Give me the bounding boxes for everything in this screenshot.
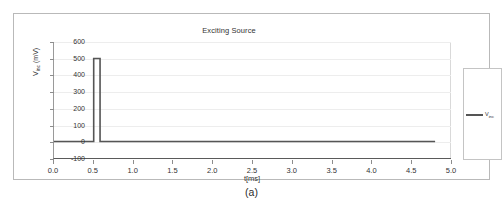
- x-axis-tick-label: 4.0: [356, 166, 386, 175]
- legend: Vinc: [463, 68, 502, 160]
- y-axis-label-unit: (mV): [32, 48, 39, 65]
- plot-area: [53, 42, 451, 159]
- x-axis-tick: [172, 160, 173, 164]
- x-axis-tick-label: 0.0: [38, 166, 68, 175]
- x-axis-tick: [53, 160, 54, 164]
- x-axis-tick-label: 3.5: [317, 166, 347, 175]
- x-axis-tick: [93, 160, 94, 164]
- y-axis-tick-label: 500: [45, 54, 85, 61]
- y-axis-tick-label: 300: [45, 88, 85, 95]
- figure-panel: Exciting Source Vinc (mV) -1000100200300…: [0, 0, 503, 215]
- series-trace-vinc: [54, 42, 451, 158]
- x-axis-tick-label: 5.0: [436, 166, 466, 175]
- legend-item-label: Vinc: [485, 111, 494, 119]
- y-axis-label-main: V: [32, 71, 39, 76]
- x-axis-tick-label: 1.5: [157, 166, 187, 175]
- x-axis-tick: [371, 160, 372, 164]
- y-axis-label-subscript: inc: [35, 65, 41, 71]
- y-axis-tick-label: 0: [45, 138, 85, 145]
- legend-label-subscript: inc: [489, 114, 494, 119]
- x-axis-tick: [292, 160, 293, 164]
- x-axis-tick: [411, 160, 412, 164]
- legend-color-swatch: [466, 114, 483, 116]
- y-axis-tick-label: 400: [45, 71, 85, 78]
- x-axis-tick-label: 4.5: [396, 166, 426, 175]
- chart-title: Exciting Source: [14, 26, 444, 35]
- x-axis-tick: [332, 160, 333, 164]
- x-axis-tick: [133, 160, 134, 164]
- y-axis-tick-label: 100: [45, 121, 85, 128]
- x-axis-tick: [252, 160, 253, 164]
- y-axis-label: Vinc (mV): [32, 48, 41, 76]
- x-axis-tick-label: 0.5: [78, 166, 108, 175]
- x-axis-tick-label: 2.0: [197, 166, 227, 175]
- x-axis-tick: [212, 160, 213, 164]
- x-axis-tick-label: 3.0: [277, 166, 307, 175]
- x-axis-tick: [451, 160, 452, 164]
- x-axis-label: t[ms]: [232, 174, 272, 183]
- y-axis-tick-label: 200: [45, 104, 85, 111]
- figure-caption: (a): [0, 186, 503, 198]
- x-axis-tick-label: 1.0: [118, 166, 148, 175]
- legend-item-vinc: Vinc: [466, 111, 494, 119]
- chart-frame: Exciting Source Vinc (mV) -1000100200300…: [13, 13, 490, 180]
- y-axis-tick-label: 600: [45, 38, 85, 45]
